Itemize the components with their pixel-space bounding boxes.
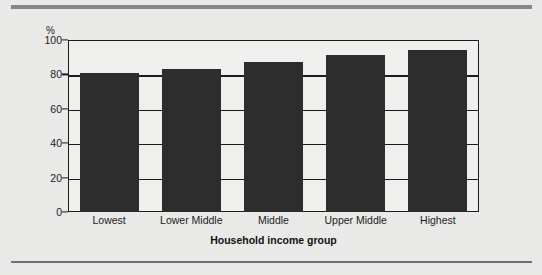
top-divider-rule: [11, 5, 532, 9]
bars-layer: [68, 40, 479, 212]
bottom-divider-rule: [11, 261, 532, 263]
bar: [408, 50, 467, 212]
x-axis-tick-label: Lowest: [92, 214, 125, 226]
y-axis-tick-label: 80: [0, 68, 62, 80]
figure-container: % 020406080100 LowestLower MiddleMiddleU…: [0, 0, 542, 275]
y-axis-tick-labels: 020406080100: [0, 40, 62, 212]
y-axis-tick-label: 60: [0, 103, 62, 115]
y-axis-tick-label: 40: [0, 137, 62, 149]
y-axis-tick-label: 100: [0, 34, 62, 46]
x-axis-tick-label: Upper Middle: [324, 214, 386, 226]
x-axis-tick-label: Middle: [258, 214, 289, 226]
x-axis-tick-labels: LowestLower MiddleMiddleUpper MiddleHigh…: [68, 214, 479, 230]
bar: [162, 69, 221, 212]
bar: [244, 62, 303, 212]
y-axis-tick-label: 0: [0, 206, 62, 218]
bar-chart: % 020406080100 LowestLower MiddleMiddleU…: [0, 14, 542, 258]
y-axis-tick-label: 20: [0, 172, 62, 184]
bar: [80, 73, 139, 212]
x-axis-title: Household income group: [68, 234, 479, 246]
x-axis-tick-label: Lower Middle: [160, 214, 222, 226]
x-axis-tick-label: Highest: [420, 214, 456, 226]
bar: [326, 55, 385, 212]
